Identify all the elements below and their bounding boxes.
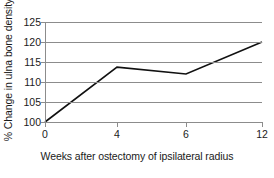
gridline-horizontal: [45, 42, 262, 43]
x-axis-tick-label: 0: [25, 129, 65, 140]
y-axis-line: [45, 22, 46, 123]
gridline-horizontal: [45, 82, 262, 83]
x-axis-tick-labels: 04612: [45, 129, 263, 145]
y-axis-tick-label: 115: [17, 57, 41, 68]
x-axis-tick-mark: [186, 122, 187, 127]
x-axis-tick-label: 4: [97, 129, 137, 140]
y-axis-tick-label: 125: [17, 17, 41, 28]
x-axis-tick-marks: [45, 122, 263, 128]
y-axis-title-text: % Change in ulna bone density: [2, 0, 14, 141]
y-axis-tick-label: 105: [17, 97, 41, 108]
y-axis-title: % Change in ulna bone density: [0, 0, 16, 140]
x-axis-tick-label: 12: [242, 129, 274, 140]
x-axis-tick-mark: [45, 122, 46, 127]
data-series-svg: [45, 22, 262, 122]
y-axis-tick-label: 100: [17, 117, 41, 128]
x-axis-tick-label: 6: [166, 129, 206, 140]
gridline-horizontal: [45, 22, 262, 23]
gridline-horizontal: [45, 62, 262, 63]
line-chart-figure: % Change in ulna bone density 1001051101…: [0, 0, 274, 178]
x-axis-tick-mark: [117, 122, 118, 127]
x-axis-title: Weeks after ostectomy of ipsilateral rad…: [0, 150, 274, 162]
x-axis-tick-mark: [262, 122, 263, 127]
plot-area: [45, 22, 262, 122]
gridline-horizontal: [45, 102, 262, 103]
y-axis-tick-label: 110: [17, 77, 41, 88]
y-axis-tick-label: 120: [17, 37, 41, 48]
